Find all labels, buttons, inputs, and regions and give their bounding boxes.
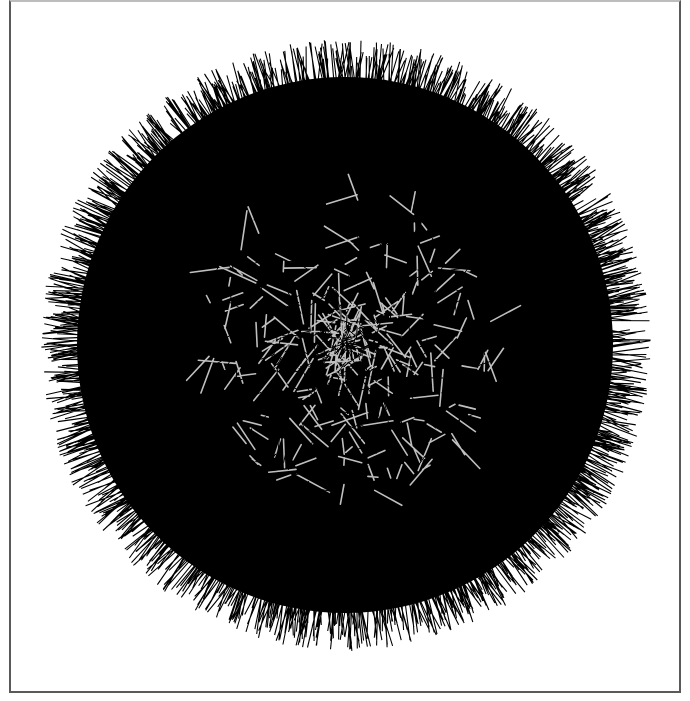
spiky-sphere-artwork (0, 0, 690, 701)
